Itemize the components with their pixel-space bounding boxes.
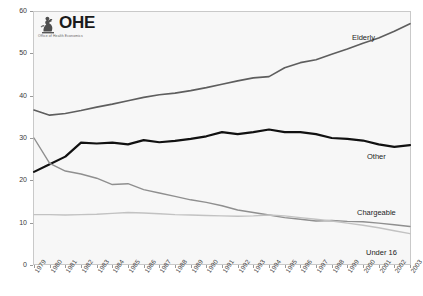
x-tick-label: 2003	[409, 258, 423, 274]
ohe-logo: OHE Office of Health Economics	[38, 13, 114, 40]
series-label-under-16: Under 16	[366, 248, 397, 257]
y-tick-label: 60	[19, 7, 27, 15]
ohe-crest-icon	[38, 14, 58, 35]
y-tick-label: 30	[19, 134, 27, 142]
y-tick-label: 0	[23, 261, 27, 269]
series-line-other	[34, 130, 410, 172]
y-tick-label: 50	[19, 49, 27, 57]
ohe-wordmark: OHE	[59, 14, 95, 32]
series-line-chargeable	[34, 138, 410, 226]
series-lines-svg	[33, 11, 411, 265]
y-axis: 0102030405060	[0, 0, 33, 296]
y-tick-label: 20	[19, 176, 27, 184]
top-margin-artifact	[0, 0, 421, 4]
series-label-chargeable: Chargeable	[357, 208, 396, 217]
ohe-subtitle: Office of Health Economics	[38, 34, 83, 38]
series-line-under-16	[34, 213, 410, 234]
x-axis: 1979198019811982198319841985198619871988…	[33, 265, 411, 296]
y-tick-label: 10	[19, 219, 27, 227]
series-label-other: Other	[367, 152, 386, 161]
y-tick-label: 40	[19, 92, 27, 100]
series-label-elderly: Elderly	[352, 33, 375, 42]
